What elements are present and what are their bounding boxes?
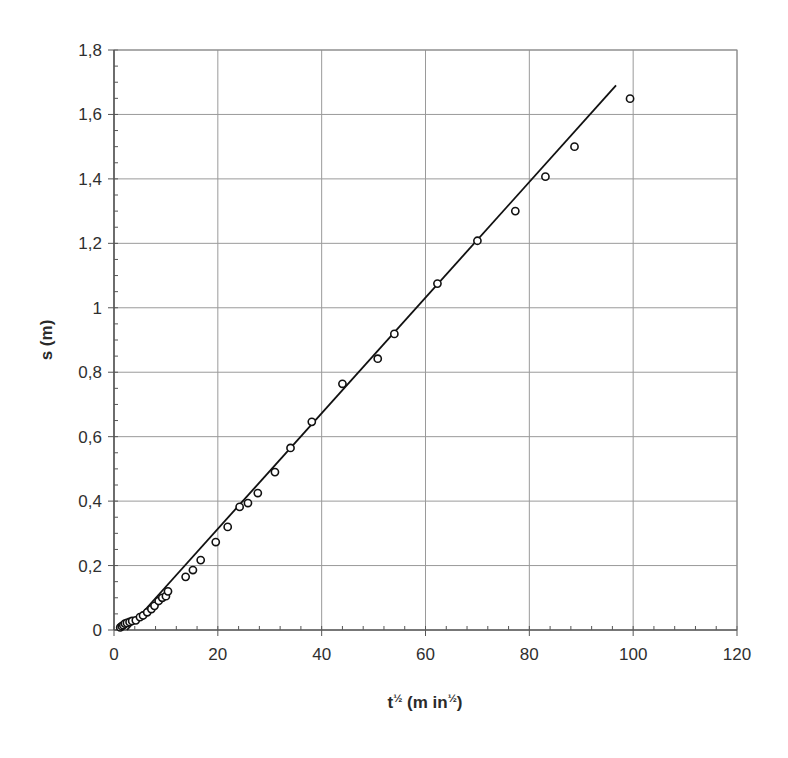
data-point [244,499,251,506]
data-point [189,566,196,573]
y-tick-label: 1 [93,299,102,318]
data-point [224,523,231,530]
y-tick-label: 0 [93,621,102,640]
y-tick-label: 1,8 [78,41,102,60]
data-point [197,556,204,563]
y-tick-label: 1,6 [78,105,102,124]
data-point [339,380,346,387]
data-point [512,208,519,215]
y-tick-label: 1,4 [78,170,102,189]
data-point [626,95,633,102]
linear-fit-line [127,85,616,630]
x-tick-label: 100 [619,645,647,664]
data-point [391,330,398,337]
data-point [254,489,261,496]
data-point [271,469,278,476]
data-point [164,588,171,595]
gridlines [114,50,737,630]
y-tick-label: 1,2 [78,234,102,253]
scatter-chart: 00,20,40,60,811,21,41,61,8 0204060801001… [0,0,788,758]
data-point [236,503,243,510]
data-point [571,143,578,150]
x-tick-label: 120 [723,645,751,664]
y-axis-title: s (m) [37,320,56,361]
data-points [117,95,634,631]
y-axis-tick-labels: 00,20,40,60,811,21,41,61,8 [78,41,102,640]
x-axis-title: t½ (m in½) [387,692,462,712]
data-point [542,173,549,180]
x-axis-tick-labels: 020406080100120 [109,645,751,664]
data-point [434,280,441,287]
y-tick-label: 0,6 [78,428,102,447]
data-point [212,538,219,545]
x-tick-label: 60 [416,645,435,664]
fit-line [127,85,616,630]
x-tick-label: 20 [208,645,227,664]
y-tick-label: 0,4 [78,492,102,511]
data-point [182,573,189,580]
y-tick-label: 0,8 [78,363,102,382]
x-tick-label: 0 [109,645,118,664]
data-point [308,418,315,425]
y-tick-label: 0,2 [78,557,102,576]
x-tick-label: 80 [520,645,539,664]
x-tick-label: 40 [312,645,331,664]
data-point [287,444,294,451]
data-point [374,355,381,362]
data-point [474,237,481,244]
minor-ticks [108,50,737,636]
